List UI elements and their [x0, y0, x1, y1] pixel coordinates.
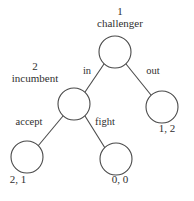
edge-label-fight: fight [89, 116, 121, 127]
payoff-label-out: 1, 2 [152, 123, 182, 135]
node-terminal-out [146, 91, 178, 123]
node-group [11, 36, 178, 175]
edge-label-in: in [76, 65, 98, 76]
node-root-challenger [99, 36, 131, 68]
node-terminal-accept [11, 141, 43, 173]
edge-label-out: out [141, 65, 165, 76]
edge-label-accept: accept [6, 116, 52, 127]
player-number-2: 2 [0, 61, 70, 73]
node-terminal-fight [100, 143, 132, 175]
node-incumbent [58, 88, 90, 120]
player-name-incumbent: incumbent [0, 73, 70, 85]
player-label-challenger: 1 challenger [84, 6, 156, 29]
payoff-label-accept: 2, 1 [3, 174, 33, 186]
payoff-label-fight: 0, 0 [105, 174, 135, 186]
game-tree-diagram: 1 challenger 2 incumbent in out accept f… [0, 0, 194, 201]
player-number-1: 1 [84, 6, 156, 18]
game-tree-canvas [0, 0, 194, 201]
player-name-challenger: challenger [84, 18, 156, 30]
player-label-incumbent: 2 incumbent [0, 61, 70, 84]
